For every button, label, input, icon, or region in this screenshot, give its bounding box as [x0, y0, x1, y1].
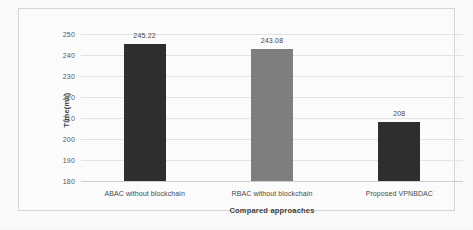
x-category-label: Proposed VPNBDAC: [366, 190, 433, 197]
y-tick-label: 200: [63, 136, 75, 143]
x-category-label: ABAC without blockchain: [104, 190, 185, 197]
plot-area: 180190200210220230240250 245.22243.08208…: [81, 34, 463, 181]
bar[interactable]: [124, 44, 166, 181]
bar[interactable]: [251, 49, 293, 181]
bar-slot: 243.08: [208, 34, 335, 181]
bar-slot: 245.22: [81, 34, 208, 181]
y-tick-label: 190: [63, 157, 75, 164]
figure-canvas: Time(ms) 180190200210220230240250 245.22…: [0, 0, 473, 230]
y-tick-label: 240: [63, 52, 75, 59]
bar-value-label: 208: [393, 110, 405, 117]
bar-value-label: 243.08: [261, 37, 284, 44]
bar-slot: 208: [336, 34, 463, 181]
y-tick-label: 230: [63, 73, 75, 80]
bar-series: 245.22243.08208: [81, 34, 463, 181]
y-tick-label: 180: [63, 178, 75, 185]
x-axis-title: Compared approaches: [81, 206, 463, 215]
y-tick-label: 210: [63, 115, 75, 122]
gridline-180: [81, 181, 463, 182]
x-category-label: RBAC without blockchain: [232, 190, 313, 197]
chart-frame: Time(ms) 180190200210220230240250 245.22…: [18, 8, 455, 211]
bar-value-label: 245.22: [133, 32, 156, 39]
bar[interactable]: [378, 122, 420, 181]
y-tick-label: 220: [63, 94, 75, 101]
y-tick-label: 250: [63, 31, 75, 38]
